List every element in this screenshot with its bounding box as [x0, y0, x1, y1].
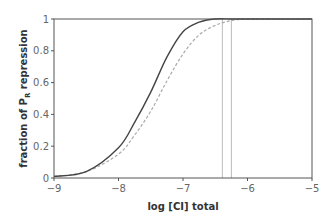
y-tick-label: 0.8	[33, 45, 49, 56]
x-tick-label: −5	[305, 183, 320, 194]
x-tick-label: −9	[47, 183, 62, 194]
y-tick-label: 0	[43, 173, 49, 184]
y-tick-label: 1	[43, 14, 49, 25]
chart: −9−8−7−6−5 00.20.40.60.81 log [CI] total…	[0, 0, 333, 220]
y-axis-ticks: 00.20.40.60.81	[33, 14, 54, 184]
x-tick-label: −7	[176, 183, 191, 194]
x-tick-label: −8	[111, 183, 126, 194]
dashed-curve	[54, 19, 312, 177]
solid-curve	[54, 19, 312, 177]
x-axis-ticks: −9−8−7−6−5	[47, 178, 320, 194]
y-axis-title: fraction of PR repression	[18, 29, 32, 167]
y-tick-label: 0.2	[33, 141, 49, 152]
curves	[54, 19, 312, 177]
reference-lines	[222, 19, 231, 178]
x-tick-label: −6	[240, 183, 255, 194]
y-tick-label: 0.4	[33, 109, 49, 120]
y-tick-label: 0.6	[33, 77, 49, 88]
x-axis-title: log [CI] total	[147, 201, 218, 212]
plot-frame	[54, 19, 312, 178]
